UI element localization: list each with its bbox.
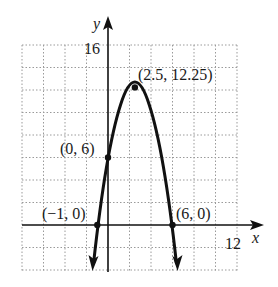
point-vertex [132, 84, 138, 90]
y-axis-label: y [91, 15, 101, 33]
point-6-0 [169, 222, 175, 228]
x-tick-12: 12 [225, 235, 241, 252]
curve-arrow-right-icon [173, 255, 183, 271]
label-6-0: (6, 0) [176, 205, 211, 223]
label-neg1-0: (−1, 0) [42, 205, 86, 223]
point-neg1-0 [94, 222, 100, 228]
y-tick-16: 16 [84, 40, 100, 57]
label-0-6: (0, 6) [60, 140, 95, 158]
x-axis-label: x [251, 229, 259, 246]
label-vertex: (2.5, 12.25) [138, 66, 213, 84]
point-0-6 [105, 154, 111, 160]
parabola-graph: y 16 12 x (2.5, 12.25) (0, 6) (−1, 0) (6… [0, 0, 278, 287]
parabola-curve [94, 82, 177, 263]
